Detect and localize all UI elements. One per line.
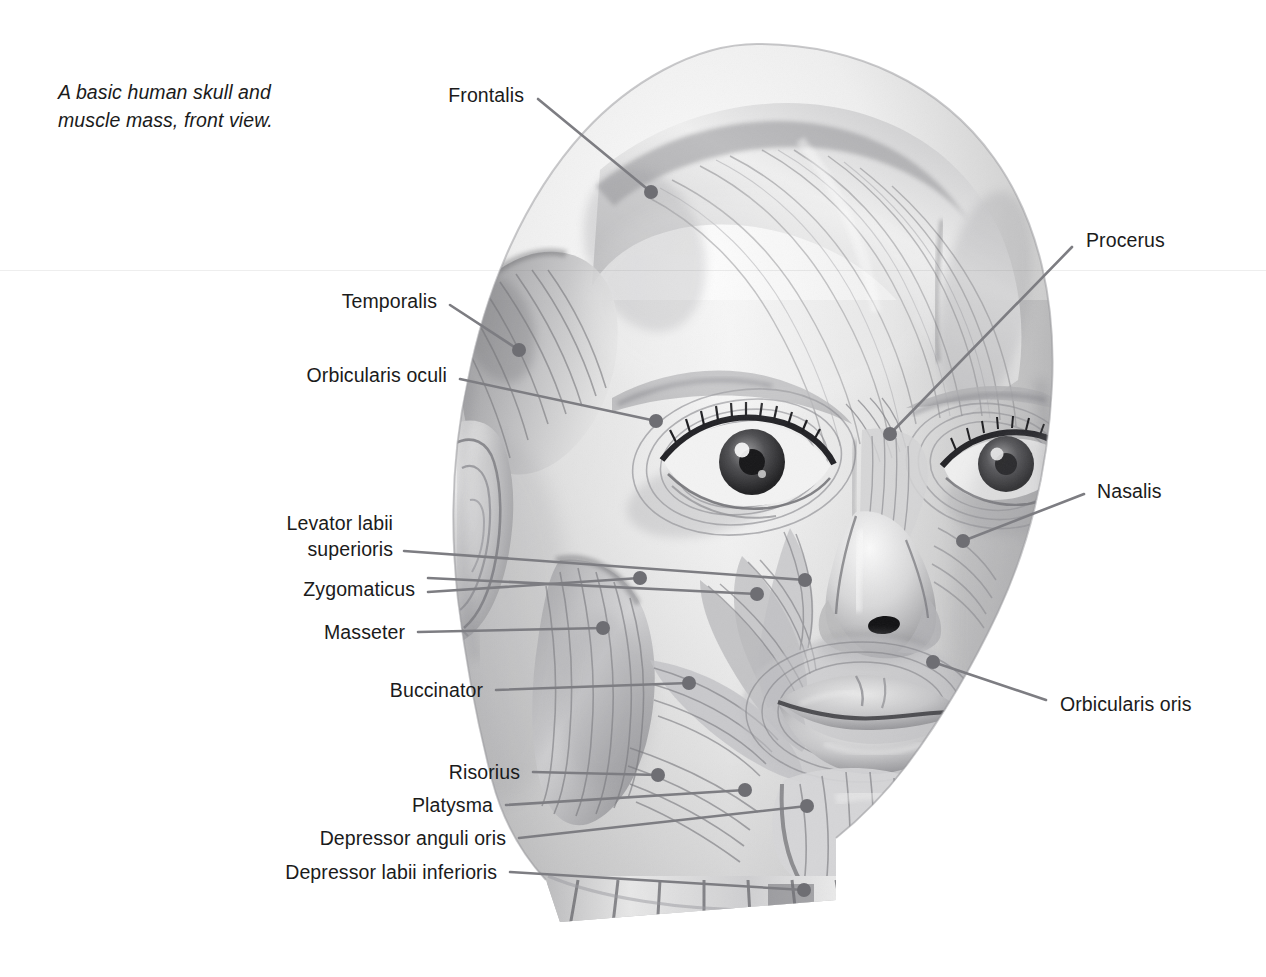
label-depressor-anguli-oris: Depressor anguli oris [320, 825, 506, 851]
caption-line-1: A basic human skull and [58, 81, 271, 103]
label-temporalis: Temporalis [342, 288, 437, 314]
label-nasalis: Nasalis [1097, 478, 1162, 504]
label-procerus: Procerus [1086, 227, 1165, 253]
leader-dot-orbicularis-oculi [649, 414, 663, 428]
leader-dot-frontalis [644, 185, 658, 199]
leader-dot-risorius [651, 768, 665, 782]
label-platysma: Platysma [412, 792, 493, 818]
leader-dot-nasalis [956, 534, 970, 548]
leader-dot-zygomaticus-b [633, 571, 647, 585]
label-zygomaticus: Zygomaticus [303, 576, 415, 602]
leader-dot-depressor-labii-inferioris [797, 883, 811, 897]
leader-dot-platysma [738, 783, 752, 797]
anatomical-illustration [0, 0, 1266, 977]
label-frontalis: Frontalis [448, 82, 524, 108]
scan-artifact-line [0, 270, 1266, 271]
leader-dot-masseter [596, 621, 610, 635]
label-risorius: Risorius [449, 759, 520, 785]
figure-canvas: A basic human skull and muscle mass, fro… [0, 0, 1266, 977]
leader-dot-orbicularis-oris [926, 655, 940, 669]
label-levator-labii-superioris-line-1: Levator labii [287, 512, 393, 534]
figure-caption: A basic human skull and muscle mass, fro… [58, 78, 358, 134]
caption-line-2: muscle mass, front view. [58, 109, 273, 131]
label-buccinator: Buccinator [390, 677, 483, 703]
leader-dot-depressor-anguli-oris [800, 799, 814, 813]
leader-dot-temporalis [512, 343, 526, 357]
leader-dot-procerus [883, 427, 897, 441]
label-masseter: Masseter [324, 619, 405, 645]
leader-dot-buccinator [682, 676, 696, 690]
label-levator-labii-superioris-line-2: superioris [307, 538, 393, 560]
label-orbicularis-oculi: Orbicularis oculi [307, 362, 447, 388]
label-levator-labii-superioris: Levator labiisuperioris [193, 510, 393, 562]
leader-dot-zygomaticus [750, 587, 764, 601]
label-orbicularis-oris: Orbicularis oris [1060, 691, 1192, 717]
leader-dot-levator-labii-superioris [798, 573, 812, 587]
label-depressor-labii-inferioris: Depressor labii inferioris [285, 859, 497, 885]
